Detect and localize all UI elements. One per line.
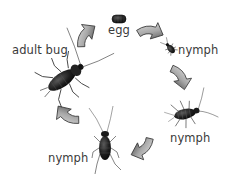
label-egg: egg: [108, 25, 130, 37]
label-nymph-2: nymph: [170, 133, 210, 145]
arrow-nymph1-to-nymph2-icon: [169, 62, 193, 91]
label-nymph-3: nymph: [48, 153, 88, 165]
arrow-adult-to-egg-icon: [68, 19, 101, 50]
nymph-small-icon: [159, 37, 178, 56]
label-nymph-1: nymph: [178, 45, 218, 57]
nymph-medium-icon: [161, 86, 219, 132]
arrow-egg-to-nymph-icon: [135, 16, 167, 45]
arrow-nymph2-to-nymph3-icon: [127, 135, 158, 163]
arrow-nymph3-to-adult-icon: [51, 100, 82, 133]
egg-capsule-icon: [112, 15, 126, 23]
nymph-large-icon: [89, 106, 121, 174]
label-adult-bug: adult bug: [12, 45, 68, 57]
